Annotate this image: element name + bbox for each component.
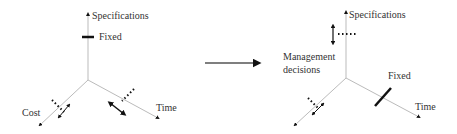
specifications-label: Specifications	[92, 10, 149, 21]
time-double-arrow	[110, 103, 124, 114]
cost-dotted-indicator	[52, 100, 64, 112]
cost-label: Cost	[22, 107, 41, 118]
fixed-bar	[375, 88, 391, 106]
tradeoff-diagram: Specifications Cost Time Fixed Specifica…	[0, 0, 457, 134]
cost-dotted-indicator	[308, 98, 318, 108]
cost-axis	[295, 78, 346, 125]
fixed-label: Fixed	[388, 70, 411, 81]
cost-double-arrow	[313, 104, 323, 114]
cost-axis	[40, 80, 88, 125]
fixed-label: Fixed	[99, 31, 122, 42]
time-label: Time	[415, 101, 436, 112]
right-diagram: Specifications Time Management decisions…	[283, 9, 436, 125]
management-decisions-line1: Management	[283, 51, 335, 62]
cost-double-arrow	[59, 105, 69, 117]
time-label: Time	[156, 102, 177, 113]
specifications-label: Specifications	[349, 9, 406, 20]
management-decisions-line2: decisions	[283, 64, 320, 75]
left-diagram: Specifications Cost Time Fixed	[22, 10, 177, 125]
